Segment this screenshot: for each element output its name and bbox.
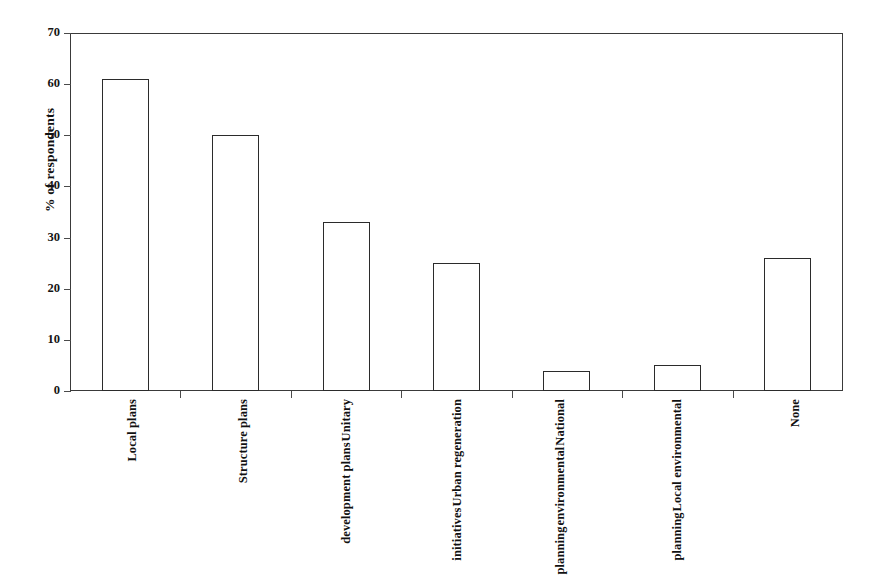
y-axis-tick (64, 33, 71, 34)
y-axis-title: % of respondents (42, 80, 58, 240)
bar (654, 365, 701, 391)
x-axis-category-label-line: Local plans (125, 399, 139, 462)
x-axis-category-label-line: environmental (553, 447, 567, 526)
x-axis-category-label-line: planning (553, 527, 567, 575)
bar (543, 371, 590, 391)
x-axis-tick (180, 391, 181, 398)
x-axis-tick (512, 391, 513, 398)
bar (212, 135, 259, 391)
x-axis-tick (291, 391, 292, 398)
x-axis-category-label-line: development plans (339, 442, 353, 543)
y-axis-tick-label: 40 (18, 179, 60, 192)
y-axis-tick (64, 135, 71, 136)
x-axis-category-label-line: National (553, 399, 567, 446)
bar (323, 222, 370, 391)
x-axis-category-label-line: None (788, 399, 802, 427)
y-axis-tick-label: 10 (18, 333, 60, 346)
x-axis-tick (733, 391, 734, 398)
x-axis-category-label-line: initiatives (450, 507, 464, 560)
y-axis-tick (64, 391, 71, 392)
x-axis-tick (401, 391, 402, 398)
x-axis-category-label-line: planning (670, 512, 684, 560)
y-axis-tick (64, 340, 71, 341)
x-axis-category-label-line: Local environmental (670, 399, 684, 511)
x-axis-category-label-line: Urban regeneration (450, 399, 464, 506)
y-axis-tick (64, 289, 71, 290)
bar (102, 79, 149, 391)
y-axis-tick-label: 60 (18, 77, 60, 90)
x-axis-tick (622, 391, 623, 398)
bar (433, 263, 480, 391)
y-axis-tick-label: 70 (18, 26, 60, 39)
y-axis-tick (64, 238, 71, 239)
x-axis-category-label-line: Unitary (339, 399, 353, 441)
y-axis-tick-label: 20 (18, 282, 60, 295)
y-axis-tick-label: 30 (18, 231, 60, 244)
bar (764, 258, 811, 391)
y-axis-tick-label: 50 (18, 128, 60, 141)
y-axis-tick-label: 0 (18, 384, 60, 397)
x-axis-category-label-line: Structure plans (236, 399, 250, 483)
y-axis-tick (64, 84, 71, 85)
y-axis-tick (64, 186, 71, 187)
